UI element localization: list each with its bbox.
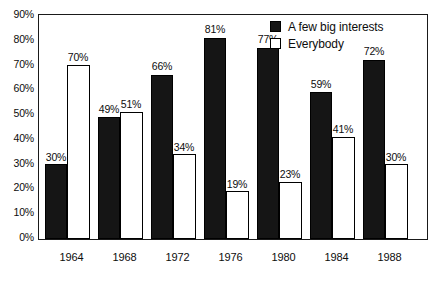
y-axis-label: 50%: [0, 108, 34, 119]
bar-value-1984-a-few-big-interests: 59%: [305, 79, 337, 90]
x-axis-label-1984: 1984: [312, 252, 362, 263]
y-axis-label: 60%: [0, 83, 34, 94]
x-axis-label-1976: 1976: [206, 252, 256, 263]
bar-1984-everybody: [332, 137, 355, 239]
legend-swatch-dark-icon: [270, 21, 281, 32]
bar-1964-a-few-big-interests: [45, 164, 68, 238]
bar-chart: 90% 80% 70% 60% 50% 40% 30% 20% 10% 0%: [0, 0, 446, 281]
legend-label: Everybody: [288, 38, 344, 50]
y-axis-label: 80%: [0, 34, 34, 45]
bar-value-1988-everybody: 30%: [380, 152, 412, 163]
bar-value-1964-a-few-big-interests: 30%: [40, 152, 72, 163]
bar-1984-a-few-big-interests: [310, 92, 333, 238]
legend-item-a-few-big-interests: A few big interests: [270, 18, 422, 35]
x-axis-label-1980: 1980: [259, 252, 309, 263]
legend-swatch-stipple-icon: [270, 38, 281, 49]
x-axis-label-1988: 1988: [365, 252, 415, 263]
bar-value-1984-everybody: 41%: [327, 124, 359, 135]
bar-value-1972-everybody: 34%: [168, 142, 200, 153]
x-axis-label-1968: 1968: [100, 252, 150, 263]
bar-1972-everybody: [173, 154, 196, 238]
bar-value-1972-a-few-big-interests: 66%: [146, 61, 178, 72]
legend-label: A few big interests: [288, 21, 383, 33]
x-axis-label-1964: 1964: [47, 252, 97, 263]
bar-1980-everybody: [279, 182, 302, 239]
bar-1988-everybody: [385, 164, 408, 238]
bar-value-1964-everybody: 70%: [62, 52, 94, 63]
y-axis-label: 0%: [0, 232, 34, 243]
y-axis-label: 10%: [0, 207, 34, 218]
bar-1976-everybody: [226, 191, 249, 238]
bar-1980-a-few-big-interests: [257, 48, 280, 239]
y-axis-label: 40%: [0, 133, 34, 144]
bar-value-1980-everybody: 23%: [274, 169, 306, 180]
legend-item-everybody: Everybody: [270, 35, 422, 52]
bar-1972-a-few-big-interests: [151, 75, 174, 239]
bar-value-1976-a-few-big-interests: 81%: [199, 24, 231, 35]
bar-1968-a-few-big-interests: [98, 117, 121, 238]
y-axis: 90% 80% 70% 60% 50% 40% 30% 20% 10% 0%: [0, 0, 34, 281]
legend: A few big interests Everybody: [270, 18, 422, 52]
bar-value-1976-everybody: 19%: [221, 179, 253, 190]
x-axis-label-1972: 1972: [153, 252, 203, 263]
bar-value-1968-everybody: 51%: [115, 99, 147, 110]
y-axis-label: 20%: [0, 182, 34, 193]
y-axis-label: 30%: [0, 158, 34, 169]
bar-1968-everybody: [120, 112, 143, 238]
y-axis-label: 70%: [0, 59, 34, 70]
y-axis-label: 90%: [0, 9, 34, 20]
bar-1976-a-few-big-interests: [204, 38, 227, 239]
bar-1988-a-few-big-interests: [363, 60, 386, 238]
